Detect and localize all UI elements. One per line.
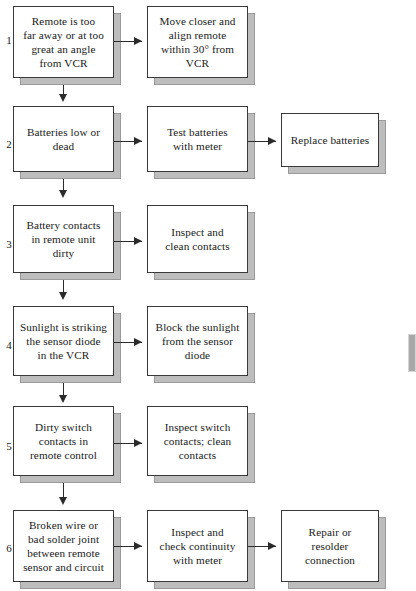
node-label: Move closer and align remote within 30° … [159, 14, 235, 70]
arrowhead-2-result [268, 137, 276, 145]
node-face: Sunlight is striking the sensor diode in… [13, 306, 114, 376]
arrowhead-5-action [134, 439, 142, 447]
node-label: Broken wire or bad solder joint between … [23, 518, 104, 574]
node-face: Inspect switch contacts; clean contacts [147, 406, 248, 476]
arrowhead-row3 [59, 190, 67, 198]
node-face: Replace batteries [281, 113, 379, 167]
node-face: Repair or resolder connection [281, 510, 379, 582]
arrowhead-row5 [59, 395, 67, 403]
arrowhead-1-action [134, 37, 142, 45]
node-face: Inspect and clean contacts [147, 205, 248, 273]
node-label: Replace batteries [291, 133, 369, 147]
node-face: Battery contacts in remote unit dirty [13, 205, 114, 273]
arrowhead-4-action [134, 338, 142, 346]
node-label: Sunlight is striking the sensor diode in… [20, 320, 107, 362]
node-problem-3[interactable]: Battery contacts in remote unit dirty [13, 205, 114, 273]
arrowhead-6-result [268, 542, 276, 550]
node-action-3[interactable]: Inspect and clean contacts [147, 205, 248, 273]
node-face: Move closer and align remote within 30° … [147, 6, 248, 78]
node-face: Batteries low or dead [13, 106, 114, 172]
node-action-1[interactable]: Move closer and align remote within 30° … [147, 6, 248, 78]
node-problem-2[interactable]: Batteries low or dead [13, 106, 114, 172]
node-action-6[interactable]: Inspect and check continuity with meter [147, 510, 248, 582]
node-face: Test batteries with meter [147, 106, 248, 172]
node-result-2[interactable]: Replace batteries [281, 113, 379, 167]
node-label: Dirty switch contacts in remote control [30, 420, 97, 462]
node-label: Inspect and clean contacts [165, 225, 229, 253]
node-action-5[interactable]: Inspect switch contacts; clean contacts [147, 406, 248, 476]
vertical-scrollbar-thumb[interactable] [408, 334, 416, 372]
node-label: Repair or resolder connection [305, 525, 355, 567]
node-face: Remote is too far away or at too great a… [13, 6, 114, 78]
node-action-2[interactable]: Test batteries with meter [147, 106, 248, 172]
node-problem-6[interactable]: Broken wire or bad solder joint between … [13, 510, 114, 582]
node-face: Dirty switch contacts in remote control [13, 406, 114, 476]
node-action-4[interactable]: Block the sunlight from the sensor diode [147, 306, 248, 376]
node-label: Remote is too far away or at too great a… [23, 14, 104, 70]
node-face: Block the sunlight from the sensor diode [147, 306, 248, 376]
node-label: Inspect switch contacts; clean contacts [164, 420, 232, 462]
flowchart-canvas: 1 Remote is too far away or at too great… [0, 0, 416, 591]
arrowhead-row6 [59, 497, 67, 505]
node-face: Broken wire or bad solder joint between … [13, 510, 114, 582]
node-problem-1[interactable]: Remote is too far away or at too great a… [13, 6, 114, 78]
arrowhead-row4 [59, 292, 67, 300]
node-label: Batteries low or dead [27, 125, 100, 153]
node-label: Test batteries with meter [167, 125, 228, 153]
node-face: Inspect and check continuity with meter [147, 510, 248, 582]
arrowhead-2-action [134, 137, 142, 145]
node-label: Inspect and check continuity with meter [160, 525, 236, 567]
node-label: Block the sunlight from the sensor diode [156, 320, 240, 362]
node-problem-4[interactable]: Sunlight is striking the sensor diode in… [13, 306, 114, 376]
arrowhead-3-action [134, 237, 142, 245]
node-result-6[interactable]: Repair or resolder connection [281, 510, 379, 582]
arrowhead-row2 [59, 94, 67, 102]
arrowhead-6-action [134, 542, 142, 550]
node-label: Battery contacts in remote unit dirty [27, 218, 101, 260]
node-problem-5[interactable]: Dirty switch contacts in remote control [13, 406, 114, 476]
